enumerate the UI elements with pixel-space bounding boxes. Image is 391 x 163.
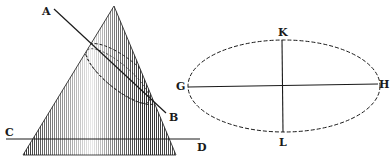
label-b: B (169, 111, 178, 124)
label-g: G (176, 80, 185, 93)
label-h: H (379, 78, 389, 91)
label-k: K (278, 26, 288, 39)
label-l: L (279, 136, 287, 149)
minor-axis-kl (282, 40, 283, 132)
ellipse-figure: G H K L (176, 26, 389, 149)
label-c: C (5, 126, 14, 139)
label-d: D (197, 141, 207, 154)
conic-section-diagram: A B C D G H K L (0, 0, 391, 163)
label-a: A (41, 5, 51, 18)
cone (23, 6, 176, 155)
